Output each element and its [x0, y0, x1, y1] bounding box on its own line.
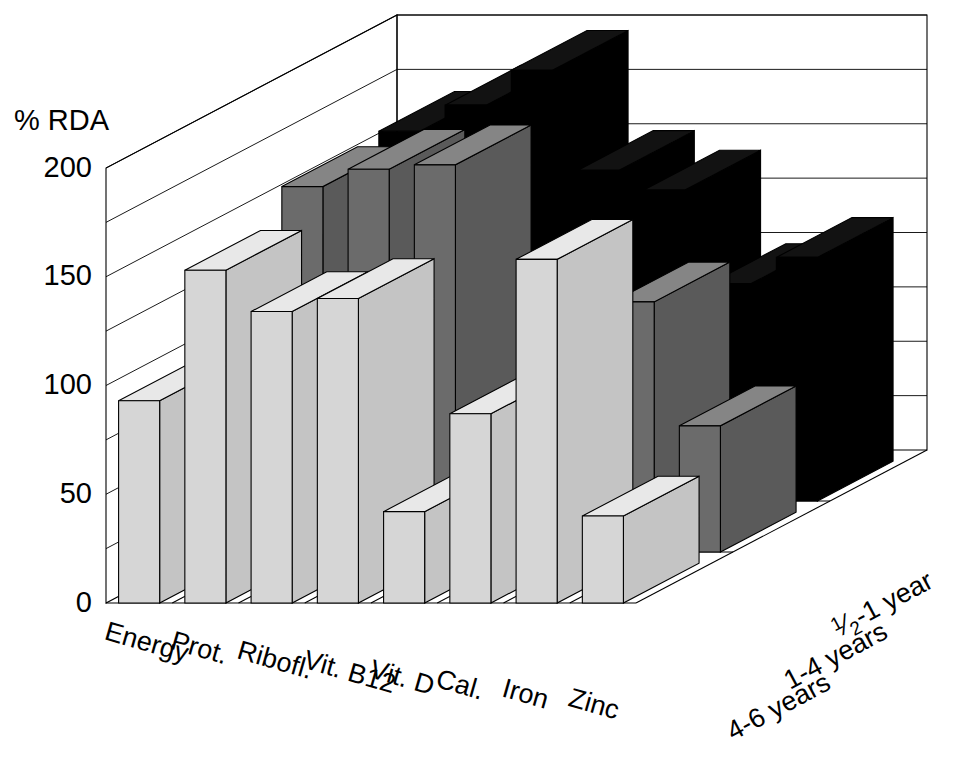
chart-figure: 050100150200 EnergyProt.Ribofl.Vit. B12V… — [0, 0, 979, 783]
y-axis-title: % RDA — [14, 104, 110, 136]
series-label-rest: -1 year — [849, 565, 937, 631]
bar-front-face — [582, 516, 623, 603]
y-tick-label-150: 150 — [44, 259, 92, 291]
bar-front-face — [251, 312, 292, 603]
y-axis-ticks: 050100150200 — [44, 151, 92, 618]
category-label-Iron: Iron — [499, 673, 552, 715]
y-tick-label-50: 50 — [60, 477, 92, 509]
chart-bars — [119, 31, 893, 603]
bar-front-face — [185, 270, 226, 603]
bar-chart-3d: 050100150200 EnergyProt.Ribofl.Vit. B12V… — [0, 0, 979, 783]
bar-front-face — [450, 414, 491, 603]
category-label-Zinc: Zinc — [565, 682, 622, 725]
depth-axis-series-labels: 4-6 years1-4 years1⁄2-1 year — [722, 565, 940, 746]
bar-front-face — [384, 512, 425, 603]
y-tick-label-100: 100 — [44, 368, 92, 400]
x-axis-category-labels: EnergyProt.Ribofl.Vit. B12Vit. DCal.Iron… — [102, 616, 623, 725]
category-label-Cal: Cal. — [433, 663, 487, 705]
bar-front-face — [516, 259, 557, 603]
y-tick-label-200: 200 — [44, 151, 92, 183]
y-tick-label-0: 0 — [76, 586, 92, 618]
bar-side-face — [817, 218, 893, 501]
gridline-left-200 — [106, 15, 397, 168]
bar-front-face — [317, 299, 358, 604]
bar-front-face — [119, 401, 160, 603]
